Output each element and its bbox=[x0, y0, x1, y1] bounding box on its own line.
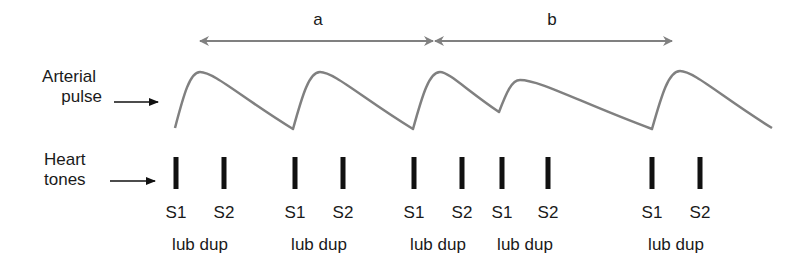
heart-tone-s1-label: S1 bbox=[492, 203, 513, 223]
arterial-pulse-waveform bbox=[175, 71, 772, 129]
heart-tone-s2-bar bbox=[341, 157, 346, 189]
heart-tone-s2-bar bbox=[460, 157, 465, 189]
heart-tone-s2-label: S2 bbox=[538, 203, 559, 223]
heart-tone-s1-bar bbox=[174, 157, 179, 189]
heart-tone-s1-bar bbox=[500, 157, 505, 189]
heart-sound-label: lub dup bbox=[172, 235, 228, 255]
heart-tone-s2-label: S2 bbox=[690, 203, 711, 223]
arterial-pulse-label-line1: Arterial bbox=[36, 67, 102, 87]
heart-tone-s1-label: S1 bbox=[642, 203, 663, 223]
heart-sound-label: lub dup bbox=[410, 235, 466, 255]
heart-tones-label-line1: Heart bbox=[44, 150, 86, 170]
heart-tone-s2-label: S2 bbox=[452, 203, 473, 223]
heart-tone-s1-label: S1 bbox=[166, 203, 187, 223]
heart-tones-label-line2: tones bbox=[44, 170, 86, 190]
heart-tone-s2-bar bbox=[698, 157, 703, 189]
heart-tone-s1-label: S1 bbox=[404, 203, 425, 223]
heart-sound-label: lub dup bbox=[648, 235, 704, 255]
heart-tone-s2-label: S2 bbox=[214, 203, 235, 223]
heart-tone-s1-bar bbox=[412, 157, 417, 189]
heart-tone-s1-bar bbox=[293, 157, 298, 189]
interval-label-a: a bbox=[313, 10, 322, 30]
interval-label-b: b bbox=[547, 10, 556, 30]
heart-tone-s2-bar bbox=[546, 157, 551, 189]
heart-sound-label: lub dup bbox=[497, 235, 553, 255]
heart-tone-s1-label: S1 bbox=[285, 203, 306, 223]
diagram-graphics bbox=[0, 0, 804, 274]
heart-tones-label: Heart tones bbox=[44, 150, 86, 190]
arterial-pulse-label: Arterial pulse bbox=[36, 67, 102, 107]
arterial-pulse-label-line2: pulse bbox=[36, 87, 102, 107]
heart-tone-s2-label: S2 bbox=[333, 203, 354, 223]
heart-tone-s2-bar bbox=[222, 157, 227, 189]
heart-sound-label: lub dup bbox=[291, 235, 347, 255]
heart-tone-s1-bar bbox=[650, 157, 655, 189]
